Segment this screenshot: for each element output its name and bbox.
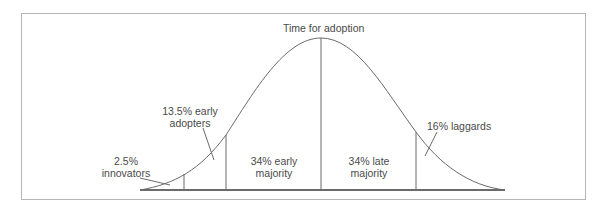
innovators-label-line2: innovators — [96, 167, 156, 179]
leader-innovators — [140, 178, 170, 185]
early-adopters-label-line2: adopters — [150, 117, 230, 129]
laggards-label-line1: 16% laggards — [427, 120, 491, 132]
title-label: Time for adoption — [283, 22, 364, 34]
early-adopters-label-line1: 13.5% early — [150, 105, 230, 117]
late-majority-label: 34% late majority — [337, 155, 401, 179]
early-majority-label-line2: majority — [242, 167, 306, 179]
laggards-label: 16% laggards — [427, 120, 491, 132]
early-majority-label-line1: 34% early — [242, 155, 306, 167]
late-majority-label-line2: majority — [337, 167, 401, 179]
early-majority-label: 34% early majority — [242, 155, 306, 179]
leader-laggards — [425, 132, 437, 156]
early-adopters-label: 13.5% early adopters — [150, 105, 230, 129]
late-majority-label-line1: 34% late — [337, 155, 401, 167]
innovators-label-line1: 2.5% — [96, 155, 156, 167]
innovators-label: 2.5% innovators — [96, 155, 156, 179]
